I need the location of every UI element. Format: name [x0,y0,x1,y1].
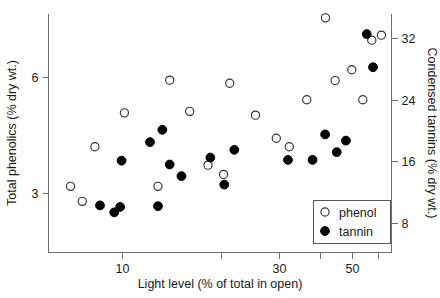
data-point-phenol [251,111,259,119]
x-axis-label: Light level (% of total in open) [138,277,303,291]
data-point-tannin [177,172,186,181]
data-point-tannin [165,160,174,169]
data-point-tannin [146,138,155,147]
data-point-phenol [120,109,128,117]
data-point-phenol [186,107,194,115]
y-axis-right-ticks: 8162432 [392,32,416,231]
y-right-tick-label: 32 [402,32,416,46]
data-point-tannin [321,130,330,139]
data-point-phenol [321,14,329,22]
x-tick-label: 50 [346,262,360,276]
x-axis-ticks: 103050 [116,253,379,276]
data-point-tannin [154,202,163,211]
data-point-tannin [332,148,341,157]
y-left-tick-label: 3 [32,187,39,201]
data-point-phenol [272,134,280,142]
data-point-tannin [369,63,378,72]
data-point-phenol [226,79,234,87]
data-point-phenol [219,170,227,178]
legend-marker-tannin [321,227,330,236]
plot-canvas: 103050 36 8162432 Light level (% of tota… [0,0,440,298]
legend-label-tannin: tannin [339,225,373,239]
data-points-layer [66,14,385,217]
data-point-tannin [158,125,167,134]
x-tick-label: 10 [116,262,130,276]
data-point-tannin [220,180,229,189]
y-axis-left-label: Total phenolics (% dry wt.) [5,60,19,206]
y-right-tick-label: 8 [402,217,409,231]
data-point-phenol [66,182,74,190]
data-point-tannin [284,155,293,164]
data-point-tannin [206,153,215,162]
data-point-tannin [116,203,125,212]
data-point-tannin [230,145,239,154]
legend-label-phenol: phenol [339,206,377,220]
data-point-tannin [362,30,371,39]
data-point-phenol [348,66,356,74]
data-point-phenol [285,143,293,151]
y-right-tick-label: 16 [402,155,416,169]
data-point-phenol [377,31,385,39]
data-point-phenol [359,96,367,104]
data-point-phenol [154,182,162,190]
legend: phenol tannin [314,201,391,244]
y-left-tick-label: 6 [32,71,39,85]
data-point-phenol [303,96,311,104]
y-axis-left-ticks: 36 [32,71,49,201]
series-phenol [66,14,385,206]
scatter-plot-figure: 103050 36 8162432 Light level (% of tota… [0,0,440,298]
data-point-phenol [78,197,86,205]
data-point-phenol [166,76,174,84]
y-right-tick-label: 24 [402,94,416,108]
x-tick-label: 30 [273,262,287,276]
data-point-tannin [117,156,126,165]
data-point-phenol [91,143,99,151]
data-point-tannin [342,136,351,145]
series-tannin [96,30,378,217]
data-point-tannin [308,155,317,164]
data-point-phenol [331,76,339,84]
data-point-tannin [96,201,105,210]
y-axis-right-label: Condensed tannins (% dry wt.) [425,48,439,219]
legend-marker-phenol [321,208,329,216]
